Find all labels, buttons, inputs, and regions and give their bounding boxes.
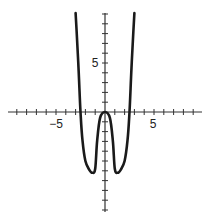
y-tick-label-5: 5 xyxy=(92,56,99,70)
function-graph: −5 5 5 xyxy=(0,0,209,218)
x-tick-label-5: 5 xyxy=(150,117,157,131)
x-tick-label-neg5: −5 xyxy=(49,117,63,131)
